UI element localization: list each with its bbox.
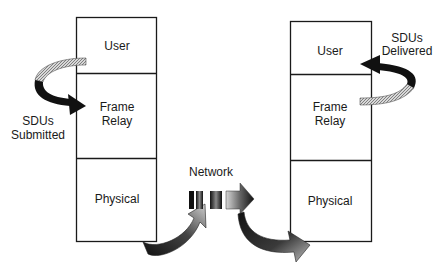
left-layer-physical: Physical (95, 192, 140, 206)
packet-2 (196, 191, 203, 209)
network-label: Network (189, 165, 234, 179)
sdus-delivered-label-1: SDUs (391, 31, 422, 45)
right-layer-user: User (317, 44, 342, 58)
left-protocol-stack: User Frame Relay Physical (77, 18, 157, 242)
packet-3 (210, 191, 222, 209)
network-right-arrow (226, 183, 254, 214)
right-layer-frame-relay-1: Frame (313, 100, 348, 114)
sdus-submitted-label-1: SDUs (22, 114, 53, 128)
submitted-arrow-dark-body (35, 80, 70, 106)
packet-1 (189, 191, 194, 209)
left-layer-user: User (104, 39, 129, 53)
frame-relay-diagram: User Frame Relay Physical User Frame Rel… (0, 0, 446, 275)
right-layer-frame-relay-2: Relay (315, 114, 346, 128)
left-layer-frame-relay-1: Frame (100, 100, 135, 114)
delivered-arrow-dark-body (378, 63, 416, 88)
sdus-delivered-label-2: Delivered (382, 44, 433, 58)
sdus-submitted-label-2: Submitted (11, 128, 65, 142)
right-protocol-stack: User Frame Relay Physical (291, 22, 372, 242)
left-layer-frame-relay-2: Relay (102, 114, 133, 128)
right-layer-physical: Physical (308, 194, 353, 208)
